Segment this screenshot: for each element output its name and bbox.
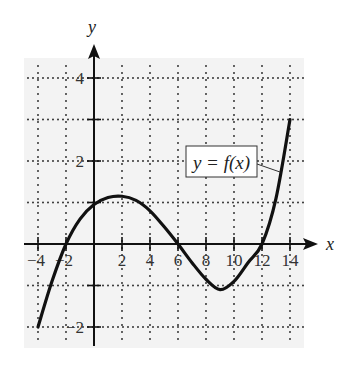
y-tick-label: 4 — [76, 69, 85, 88]
x-tick-label: −4 — [27, 251, 46, 270]
function-graph: −4−2246810121442−2 y = f(x) x y — [0, 0, 350, 367]
x-axis-label: x — [325, 234, 334, 254]
y-tick-label: 2 — [76, 152, 85, 171]
x-tick-label: 4 — [146, 251, 155, 270]
curve-label: y = f(x) — [191, 152, 250, 174]
y-tick-label: −2 — [66, 318, 84, 337]
x-tick-label: 2 — [118, 251, 127, 270]
x-tick-label: 10 — [226, 251, 243, 270]
x-tick-label: 14 — [282, 251, 300, 270]
x-tick-label: 6 — [174, 251, 183, 270]
x-tick-label: 8 — [202, 251, 211, 270]
y-axis-label: y — [86, 17, 96, 37]
